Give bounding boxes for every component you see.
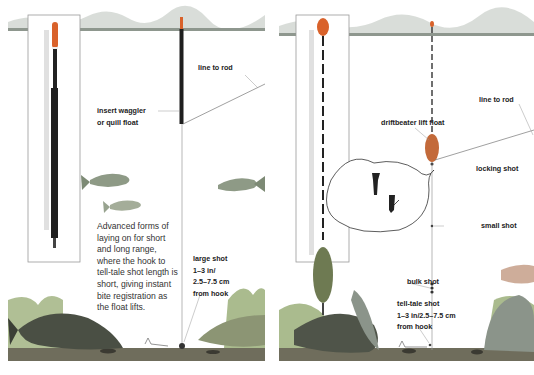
shot-magnifier-callout bbox=[327, 159, 435, 232]
small-shot-icon bbox=[431, 225, 434, 228]
description-line: bite registration as bbox=[97, 291, 178, 303]
label-small-shot: small shot bbox=[481, 220, 517, 232]
description-text: Advanced forms of laying on for short an… bbox=[97, 221, 178, 314]
large-shot-line2: 1–3 in/ bbox=[193, 265, 229, 277]
float-closeup-inset bbox=[296, 15, 349, 315]
hook-icon bbox=[399, 341, 427, 347]
telltale-line1: tell-tale shot bbox=[397, 298, 456, 310]
label-bulk-shot: bulk shot bbox=[407, 276, 439, 288]
description-line: tell-tale shot length is bbox=[97, 267, 178, 279]
description-line: short, giving instant bbox=[97, 279, 178, 291]
telltale-line2: 1–3 in/2.5–7.5 cm bbox=[397, 310, 456, 322]
telltale-line3: from hook bbox=[397, 321, 456, 333]
line-to-rod bbox=[183, 84, 265, 124]
roach-fish-icon bbox=[81, 174, 130, 190]
large-shot-line3: 2.5–7.5 cm bbox=[193, 276, 229, 288]
description-line: where the hook to bbox=[97, 256, 178, 268]
label-driftbeater-float: driftbeater lift float bbox=[381, 117, 445, 129]
right-panel-driftbeater: line to rod driftbeater lift float locki… bbox=[279, 0, 534, 375]
large-shot-line4: from hook bbox=[193, 288, 229, 300]
line-to-rod bbox=[435, 130, 534, 160]
left-rig-illustration bbox=[8, 0, 265, 375]
description-line: and long range, bbox=[97, 244, 178, 256]
description-line: laying on for short bbox=[97, 233, 178, 245]
float-closeup-inset bbox=[28, 15, 80, 262]
label-line-to-rod: line to rod bbox=[479, 94, 514, 106]
float-tip-icon bbox=[52, 22, 58, 48]
large-shot-icon bbox=[179, 343, 185, 349]
roach-fish-icon bbox=[501, 265, 534, 284]
label-large-shot: large shot 1–3 in/ 2.5–7.5 cm from hook bbox=[193, 253, 229, 299]
label-quill-float: or quill float bbox=[97, 117, 138, 129]
label-locking-shot: locking shot bbox=[476, 163, 518, 175]
telltale-shot-icon bbox=[429, 344, 432, 347]
description-line: the float lifts. bbox=[97, 302, 178, 314]
float-body-icon bbox=[313, 247, 333, 303]
float-tip-icon bbox=[317, 18, 329, 36]
rudd-fish-icon bbox=[103, 201, 141, 213]
label-insert-waggler: insert waggler bbox=[97, 105, 146, 117]
large-shot-line1: large shot bbox=[193, 253, 229, 265]
carp-fish-icon bbox=[484, 295, 534, 352]
left-panel-insert-waggler: line to rod insert waggler or quill floa… bbox=[8, 0, 265, 375]
label-telltale-shot: tell-tale shot 1–3 in/2.5–7.5 cm from ho… bbox=[397, 298, 456, 333]
label-line-to-rod: line to rod bbox=[198, 62, 233, 74]
hook-icon bbox=[145, 338, 168, 346]
description-line: Advanced forms of bbox=[97, 221, 178, 233]
chub-fish-icon bbox=[218, 176, 265, 192]
